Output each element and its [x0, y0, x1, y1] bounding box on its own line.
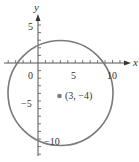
x-axis-label: x — [132, 56, 138, 68]
x-tick-label-5: 5 — [71, 70, 76, 81]
y-axis-arrow-icon — [36, 14, 41, 21]
x-tick-label-10: 10 — [107, 70, 117, 81]
graph-canvas: x y 0 5 10 5 −5 −10 (3, −4) — [0, 0, 139, 162]
center-point-label: (3, −4) — [65, 90, 92, 102]
y-tick-label-neg5: −5 — [21, 98, 32, 109]
y-axis-label: y — [33, 1, 39, 13]
y-tick-label-5: 5 — [28, 21, 33, 32]
circle-curve — [8, 41, 113, 146]
center-point — [57, 94, 62, 99]
x-axis — [4, 60, 131, 66]
x-tick-label-0: 0 — [28, 70, 33, 81]
x-axis-arrow-icon — [124, 61, 131, 66]
y-tick-label-neg10: −10 — [44, 136, 60, 147]
y-axis — [36, 14, 42, 156]
circle-graph: x y 0 5 10 5 −5 −10 (3, −4) — [0, 0, 139, 162]
